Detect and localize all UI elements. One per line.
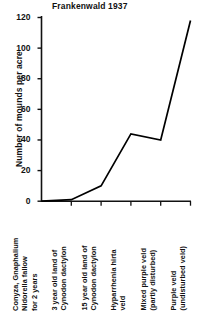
x-axis-category-label-line: Conyza, Gnaphalium <box>11 238 20 311</box>
x-axis-category-label-line: (undisturbed veld) <box>179 246 188 311</box>
x-axis-category-label-line: Mixed purple veld <box>140 249 149 311</box>
data-series-line <box>42 21 191 202</box>
x-axis-category-label: Mixed purple veld(partly disturbed) <box>140 249 159 311</box>
x-axis-category-label-line: 3 year old land of <box>50 247 59 311</box>
x-axis-category-label-line: 15 year old land of <box>80 246 89 311</box>
x-axis-category-label-line: for 2 years <box>30 238 39 311</box>
x-axis-category-label: Conyza, GnaphaliumNidorella fallowfor 2 … <box>11 238 39 311</box>
x-axis-category-label: Hyparrhenia hirtaveld <box>110 250 129 311</box>
x-axis-category-label-line: (partly disturbed) <box>149 249 158 311</box>
x-axis-category-label: Purple veld(undisturbed veld) <box>169 246 188 311</box>
x-axis-category-label-line: Cynodon dactylon <box>60 247 69 311</box>
x-axis-category-label-line: veld <box>119 250 128 311</box>
x-axis-category-label-line: Nidorella fallow <box>20 238 29 311</box>
x-axis-category-label: 15 year old land ofCynodon dactylon <box>80 246 99 311</box>
x-axis-category-label: 3 year old land ofCynodon dactylon <box>50 247 69 311</box>
chart-figure: Frankenwald 1937 Number of mounds per ac… <box>0 0 202 315</box>
x-axis-category-label-line: Cynodon dactylon <box>89 246 98 311</box>
x-axis-category-label-line: Purple veld <box>169 246 178 311</box>
x-axis-category-label-line: Hyparrhenia hirta <box>110 250 119 311</box>
